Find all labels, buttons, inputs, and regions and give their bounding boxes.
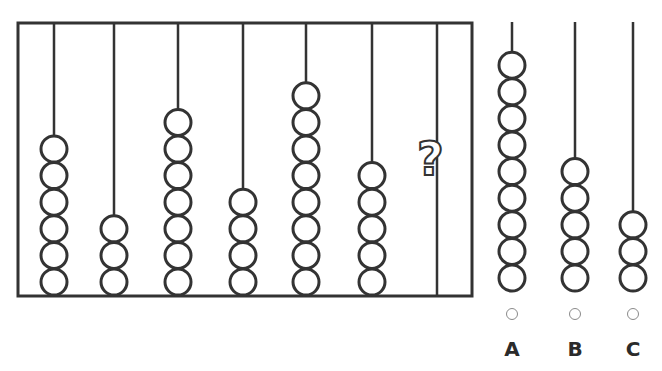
rod-1-bead [41, 163, 67, 189]
rod-5-bead [293, 189, 319, 215]
option-c-radio[interactable] [627, 308, 639, 320]
option-b-bead [562, 212, 588, 238]
option-a-radio[interactable] [506, 308, 518, 320]
abacus-puzzle [0, 0, 662, 371]
option-a-bead [499, 159, 525, 185]
rod-5-bead [293, 216, 319, 242]
rod-3-bead [165, 216, 191, 242]
option-b-label: B [567, 337, 582, 361]
option-a-bead [499, 238, 525, 264]
rod-6-bead [359, 242, 385, 268]
option-b-bead [562, 265, 588, 291]
rod-4-bead [230, 269, 256, 295]
option-a-bead [499, 79, 525, 105]
option-b-bead [562, 159, 588, 185]
rod-1-bead [41, 189, 67, 215]
rod-3-bead [165, 163, 191, 189]
option-c-bead [620, 265, 646, 291]
option-b-bead [562, 238, 588, 264]
option-a-label: A [504, 337, 519, 361]
rod-1-bead [41, 269, 67, 295]
rod-4-bead [230, 216, 256, 242]
rod-3-bead [165, 242, 191, 268]
option-a-bead [499, 185, 525, 211]
rod-3-bead [165, 136, 191, 162]
rod-6-bead [359, 163, 385, 189]
rod-6-bead [359, 216, 385, 242]
option-a-bead [499, 265, 525, 291]
rod-2-bead [101, 269, 127, 295]
rod-4-bead [230, 242, 256, 268]
rod-6-bead [359, 189, 385, 215]
rod-5-bead [293, 136, 319, 162]
rod-3-bead [165, 189, 191, 215]
rod-1-bead [41, 136, 67, 162]
option-c-bead [620, 212, 646, 238]
option-a-bead [499, 105, 525, 131]
option-b-radio[interactable] [569, 308, 581, 320]
option-b-bead [562, 185, 588, 211]
option-a-bead [499, 212, 525, 238]
option-c-label: C [626, 337, 641, 361]
rod-6-bead [359, 269, 385, 295]
rod-2-bead [101, 216, 127, 242]
option-a-bead [499, 132, 525, 158]
rod-5-bead [293, 269, 319, 295]
option-a-bead [499, 52, 525, 78]
question-mark: ? [417, 136, 444, 182]
rod-1-bead [41, 242, 67, 268]
rod-5-bead [293, 242, 319, 268]
option-c-bead [620, 238, 646, 264]
rod-5-bead [293, 83, 319, 109]
rod-5-bead [293, 109, 319, 135]
rod-2-bead [101, 242, 127, 268]
rod-5-bead [293, 163, 319, 189]
rod-4-bead [230, 189, 256, 215]
rod-1-bead [41, 216, 67, 242]
rod-3-bead [165, 269, 191, 295]
rod-3-bead [165, 109, 191, 135]
